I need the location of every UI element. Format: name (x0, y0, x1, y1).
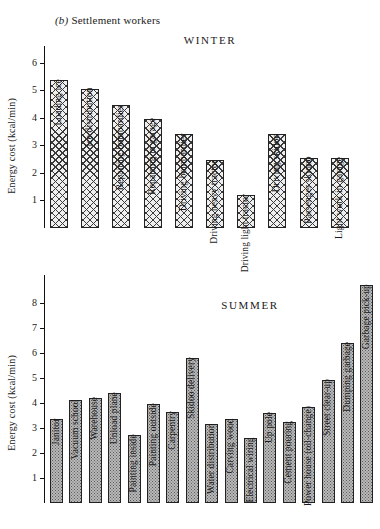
bar-group[interactable]: Electrical wiring (244, 438, 257, 503)
winter-y-tick (40, 63, 45, 64)
bar[interactable]: Driving light tractor (237, 195, 255, 228)
summer-y-tick (40, 378, 45, 379)
bar[interactable]: Vacuum school (69, 400, 82, 503)
bar-group[interactable]: Driving bombardier (175, 134, 193, 228)
winter-y-axis-label: Energy cost (kcal/min) (6, 98, 17, 194)
bar[interactable]: Unload plane (108, 393, 121, 503)
bar[interactable]: Power house (oil-change) (302, 407, 315, 503)
winter-y-tick-label: 2 (23, 167, 37, 178)
bar-group[interactable]: Light work in garage (331, 158, 349, 228)
bar-group[interactable]: Power house (oil-change) (302, 407, 315, 503)
bar-group[interactable]: Repairing in garage (144, 119, 162, 228)
bar-category-label: Painting inside (129, 434, 139, 492)
bar[interactable]: Electrical wiring (244, 438, 257, 503)
bar[interactable]: Carving wood (225, 419, 238, 503)
bar-category-label: Janitor (52, 418, 62, 445)
bar[interactable]: Cement pouring (283, 422, 296, 503)
bar-group[interactable]: Skidoo delivery (186, 358, 199, 503)
bar[interactable]: Painting inside (128, 435, 141, 503)
bar-group[interactable]: Carpentry (166, 412, 179, 503)
bar-category-label: Painting outside (149, 403, 159, 466)
summer-y-tick-label: 2 (23, 447, 37, 458)
bar-group[interactable]: Warehouse (89, 398, 102, 503)
bar-group[interactable]: Loading ice (50, 80, 68, 228)
summer-y-tick (40, 328, 45, 329)
winter-y-tick-label: 6 (23, 57, 37, 68)
bar-group[interactable]: Up pole (263, 413, 276, 503)
bar-group[interactable]: Painting outside (147, 404, 160, 503)
bar-category-label: Passenger skidoo (304, 157, 314, 224)
bar-category-label: Carving wood (226, 418, 236, 473)
bar-group[interactable]: Unload plane (108, 393, 121, 503)
bar-group[interactable]: Garbage pick-up (360, 285, 373, 503)
bar[interactable]: Warehouse (89, 398, 102, 503)
bar[interactable]: Up pole (263, 413, 276, 503)
bar-category-label: Driving bombardier (179, 133, 189, 211)
bar-category-label: Up pole (265, 412, 275, 443)
bar[interactable]: Ice distribution (81, 89, 99, 228)
bar-group[interactable]: Repairing bombardier (112, 105, 130, 228)
bar-group[interactable]: Vacuum school (69, 400, 82, 503)
bar[interactable]: Skidoo delivery (186, 358, 199, 503)
bar-group[interactable]: Painting inside (128, 435, 141, 503)
summer-y-tick-label: 4 (23, 397, 37, 408)
bar-category-label: Street clear-up (323, 379, 333, 436)
winter-chart-title: WINTER (150, 34, 270, 46)
bar-group[interactable]: Janitor (50, 419, 63, 503)
bar-group[interactable]: Cement pouring (283, 422, 296, 503)
bar[interactable]: Driving bombardier (175, 134, 193, 228)
bar-group[interactable]: Driving heavy tractor (206, 160, 224, 228)
summer-y-tick (40, 453, 45, 454)
summer-y-tick-label: 5 (23, 372, 37, 383)
bar-group[interactable]: Street clear-up (322, 380, 335, 503)
bar-group[interactable]: Dumping garbage (341, 343, 354, 503)
bar[interactable]: Driving heavy tractor (206, 160, 224, 228)
bar-category-label: Electrical wiring (246, 437, 256, 502)
bar-category-label: Unload plane (110, 392, 120, 444)
summer-y-tick-label: 6 (23, 347, 37, 358)
bar-group[interactable]: Ice distribution (81, 89, 99, 228)
bar-category-label: Skidoo delivery (188, 357, 198, 419)
bar[interactable]: Dumping garbage (341, 343, 354, 503)
bar-category-label: Carpentry (168, 411, 178, 450)
winter-y-tick (40, 200, 45, 201)
bar-group[interactable]: Driving light tractor (237, 195, 255, 228)
bar-category-label: Cement pouring (285, 421, 295, 484)
bar-group[interactable]: Carving wood (225, 419, 238, 503)
winter-y-tick-label: 4 (23, 112, 37, 123)
summer-chart-title: SUMMER (190, 299, 310, 311)
summer-y-tick-label: 8 (23, 297, 37, 308)
summer-chart: SUMMER Energy cost (kcal/min) 12345678Ja… (0, 255, 380, 525)
summer-y-tick (40, 428, 45, 429)
bar[interactable]: Janitor (50, 419, 63, 503)
winter-y-tick (40, 90, 45, 91)
bar[interactable]: Painting outside (147, 404, 160, 503)
bar[interactable]: Repairing in garage (144, 119, 162, 228)
bar-category-label: Dumping garbage (343, 342, 353, 412)
bar-category-label: Repairing bombardier (117, 104, 127, 190)
bar-group[interactable]: Passenger skidoo (300, 158, 318, 228)
bar[interactable]: Repairing bombardier (112, 105, 130, 228)
summer-y-tick (40, 403, 45, 404)
winter-y-tick-label: 3 (23, 139, 37, 150)
figure-caption: (b) Settlement workers (55, 14, 160, 26)
bar[interactable]: Water distribution (205, 424, 218, 503)
bar-category-label: Repairing in garage (148, 118, 158, 195)
bar[interactable]: Passenger skidoo (300, 158, 318, 228)
summer-y-tick (40, 353, 45, 354)
winter-chart: WINTER Energy cost (kcal/min) 123456Load… (0, 28, 380, 243)
bar[interactable]: Street clear-up (322, 380, 335, 503)
figure-caption-prefix: (b) (55, 14, 68, 26)
bar-category-label: Vacuum school (71, 399, 81, 459)
bar-category-label: Driving heavy tractor (210, 159, 220, 243)
bar[interactable]: Carpentry (166, 412, 179, 503)
bar-category-label: Ice distribution (85, 88, 95, 147)
bar[interactable]: Light work in garage (331, 158, 349, 228)
bar-category-label: Warehouse (91, 397, 101, 440)
bar-group[interactable]: Driving skidoo (268, 134, 286, 228)
bar[interactable]: Driving skidoo (268, 134, 286, 228)
bar-group[interactable]: Water distribution (205, 424, 218, 503)
bar[interactable]: Garbage pick-up (360, 285, 373, 503)
bar-category-label: Light work in garage (335, 157, 345, 239)
bar[interactable]: Loading ice (50, 80, 68, 228)
